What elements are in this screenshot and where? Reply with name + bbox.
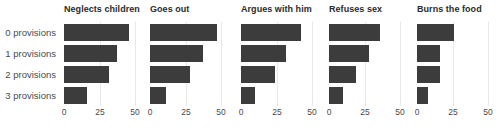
faceted-bar-chart: 0 provisions 1 provisions 2 provisions 3… [0, 0, 504, 128]
bar-0-provisions[interactable] [417, 24, 454, 41]
panel-argues-with-him: Argues with him 0 25 50 [241, 0, 327, 128]
x-axis: 0 25 50 [150, 107, 222, 121]
bar-1-provisions[interactable] [241, 45, 286, 62]
x-axis: 0 25 50 [64, 107, 136, 121]
bar-row [150, 64, 222, 85]
panel-title: Burns the food [417, 4, 482, 14]
bar-row [241, 43, 313, 64]
panel-title: Refuses sex [329, 4, 382, 14]
panel-goes-out: Goes out 0 25 50 [150, 0, 236, 128]
bar-row [417, 85, 489, 106]
plot-area [64, 22, 136, 106]
bar-row [417, 22, 489, 43]
plot-area [241, 22, 313, 106]
bar-1-provisions[interactable] [329, 45, 369, 62]
x-tick-50: 50 [307, 107, 316, 117]
x-axis: 0 25 50 [241, 107, 313, 121]
x-tick-50: 50 [395, 107, 404, 117]
bar-0-provisions[interactable] [150, 24, 217, 41]
bar-3-provisions[interactable] [64, 87, 87, 104]
panel-burns-the-food: Burns the food 0 25 50 [417, 0, 503, 128]
x-tick-0: 0 [327, 107, 332, 117]
bar-row [241, 85, 313, 106]
bar-1-provisions[interactable] [150, 45, 203, 62]
bar-row [241, 22, 313, 43]
plot-area [329, 22, 401, 106]
bar-3-provisions[interactable] [329, 87, 343, 104]
bar-2-provisions[interactable] [329, 66, 356, 83]
bar-2-provisions[interactable] [241, 66, 275, 83]
bar-0-provisions[interactable] [64, 24, 129, 41]
panel-neglects-children: Neglects children 0 25 50 [64, 0, 150, 128]
x-tick-25: 25 [448, 107, 457, 117]
bar-2-provisions[interactable] [417, 66, 440, 83]
bar-3-provisions[interactable] [417, 87, 428, 104]
panel-title: Argues with him [241, 4, 312, 14]
bar-row [64, 64, 136, 85]
panel-title: Goes out [150, 4, 189, 14]
panel-container: Neglects children 0 25 50 Goes out [0, 0, 504, 128]
x-axis: 0 25 50 [417, 107, 489, 121]
x-tick-50: 50 [483, 107, 492, 117]
bar-row [150, 22, 222, 43]
x-tick-0: 0 [239, 107, 244, 117]
bar-row [64, 43, 136, 64]
bar-row [329, 64, 401, 85]
bar-row [329, 43, 401, 64]
bar-0-provisions[interactable] [329, 24, 380, 41]
x-tick-25: 25 [360, 107, 369, 117]
x-axis: 0 25 50 [329, 107, 401, 121]
x-tick-0: 0 [62, 107, 67, 117]
x-tick-25: 25 [181, 107, 190, 117]
bar-3-provisions[interactable] [150, 87, 166, 104]
bar-row [64, 85, 136, 106]
bar-row [64, 22, 136, 43]
bar-row [241, 64, 313, 85]
bar-row [150, 43, 222, 64]
bar-1-provisions[interactable] [64, 45, 117, 62]
panel-refuses-sex: Refuses sex 0 25 50 [329, 0, 415, 128]
x-tick-0: 0 [415, 107, 420, 117]
bar-row [417, 43, 489, 64]
bar-2-provisions[interactable] [64, 66, 109, 83]
bar-row [329, 85, 401, 106]
bar-row [150, 85, 222, 106]
x-tick-0: 0 [148, 107, 153, 117]
x-tick-25: 25 [272, 107, 281, 117]
bar-row [329, 22, 401, 43]
bar-2-provisions[interactable] [150, 66, 190, 83]
bar-1-provisions[interactable] [417, 45, 440, 62]
plot-area [417, 22, 489, 106]
x-tick-50: 50 [130, 107, 139, 117]
panel-title: Neglects children [64, 4, 140, 14]
bar-3-provisions[interactable] [241, 87, 255, 104]
x-tick-25: 25 [95, 107, 104, 117]
x-tick-50: 50 [216, 107, 225, 117]
bar-row [417, 64, 489, 85]
bar-0-provisions[interactable] [241, 24, 301, 41]
plot-area [150, 22, 222, 106]
